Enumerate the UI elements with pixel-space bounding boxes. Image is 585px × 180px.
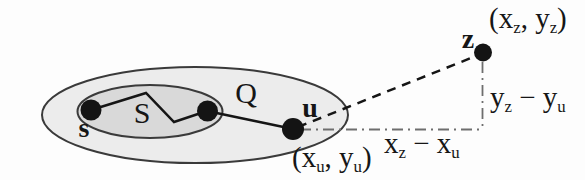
inner-set-label: S <box>134 98 151 128</box>
z-coord-sub2: z <box>550 18 557 37</box>
z-coord-pre: (x <box>489 2 513 34</box>
point-s-label: s <box>79 114 90 142</box>
dx-minus: − <box>406 127 437 159</box>
u-coord-sub1: u <box>316 157 324 176</box>
u-coord-post: ) <box>362 141 372 173</box>
dy-minus: − <box>512 81 543 113</box>
inner-point-dot <box>197 101 218 122</box>
delta-y-label: yz − yu <box>490 83 566 112</box>
dx-base2: x <box>437 127 452 159</box>
outer-set-label: Q <box>235 78 257 108</box>
dy-sub2: u <box>557 97 565 116</box>
u-coordinates-label: (xu, yu) <box>292 143 372 172</box>
point-z-dot <box>474 44 492 62</box>
u-coord-mid: , y <box>325 141 354 173</box>
z-coord-mid: , y <box>521 2 550 34</box>
z-coord-sub1: z <box>513 18 520 37</box>
dx-base1: x <box>384 127 399 159</box>
u-coord-sub2: u <box>354 157 362 176</box>
point-u-label: u <box>302 94 318 122</box>
z-coordinates-label: (xz, yz) <box>489 4 567 33</box>
point-u-dot <box>282 118 304 140</box>
dy-base1: y <box>490 81 505 113</box>
dx-sub2: u <box>451 143 459 162</box>
dx-sub1: z <box>399 143 406 162</box>
figure-canvas: Q S s u z (xz, yz) (xu, yu) yz − yu xz −… <box>0 0 585 180</box>
point-z-label: z <box>462 25 474 53</box>
delta-x-label: xz − xu <box>384 129 460 158</box>
u-coord-pre: (x <box>292 141 316 173</box>
dy-sub1: z <box>505 97 512 116</box>
dy-base2: y <box>543 81 558 113</box>
z-coord-post: ) <box>557 2 567 34</box>
